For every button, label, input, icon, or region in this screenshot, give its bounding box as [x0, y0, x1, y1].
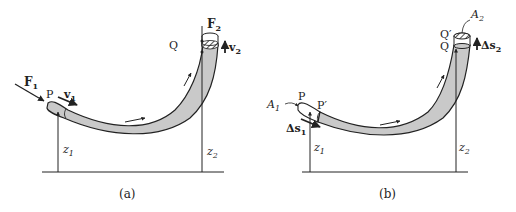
label-z1: z1: [313, 141, 325, 156]
pipe-body: [318, 45, 470, 135]
label-v1: v1: [63, 88, 76, 103]
area-a1-leader: [285, 103, 298, 106]
caption-b: (b): [379, 187, 396, 201]
label-a2: A2: [470, 8, 484, 23]
flow-arrow-icon: [380, 121, 400, 125]
flow-arrow-icon: [437, 75, 444, 88]
label-q: Q: [169, 39, 178, 52]
panel-a: F1 P v1 F2 Q v2 z1 z2 (a): [15, 17, 241, 201]
label-f2: F2: [207, 17, 221, 33]
label-p: P: [298, 90, 306, 103]
label-p: P: [46, 88, 54, 101]
label-a1: A1: [266, 98, 280, 113]
label-delta-s1: Δs1: [286, 122, 306, 137]
flow-arrow-icon: [184, 73, 191, 86]
bernoulli-diagram: F1 P v1 F2 Q v2 z1 z2 (a): [0, 0, 516, 212]
label-z1: z1: [62, 143, 74, 158]
label-delta-s2: Δs2: [481, 39, 501, 54]
label-z2: z2: [458, 141, 470, 156]
area-a2-leader: [462, 20, 470, 33]
panel-b: A1 P P′ Δs1 z1 A2 Q′ Q Δs2 z2 (b): [266, 8, 501, 201]
label-q: Q: [440, 40, 449, 53]
label-p-prime: P′: [317, 99, 327, 112]
caption-a: (a): [119, 187, 136, 201]
label-z2: z2: [206, 145, 218, 160]
flow-arrow-icon: [125, 118, 145, 122]
label-f1: F1: [24, 75, 38, 91]
label-v2: v2: [228, 41, 241, 56]
